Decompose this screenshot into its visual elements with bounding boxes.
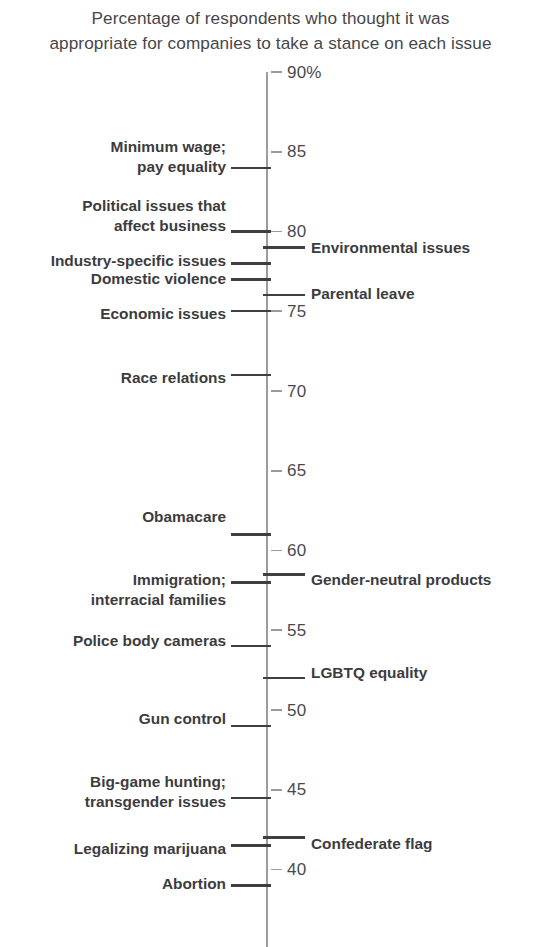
scale-tick-label: 75: [287, 303, 306, 320]
data-point-connector: [269, 573, 305, 575]
data-point-connector: [231, 310, 265, 312]
data-point-label: Race relations: [0, 368, 226, 388]
data-point-connector: [231, 230, 265, 232]
scale-tick-mark: [271, 789, 282, 791]
data-point-label: Obamacare: [0, 507, 226, 527]
scale-tick-mark: [271, 709, 282, 711]
data-point-connector: [231, 374, 265, 376]
data-point-label: Gun control: [0, 709, 226, 729]
data-point-connector: [231, 167, 265, 169]
scale-tick-label: 55: [287, 622, 306, 639]
data-point-connector: [269, 836, 305, 838]
scale-tick-mark: [271, 629, 282, 631]
scale-tick-mark: [271, 550, 282, 552]
data-point-label: Environmental issues: [311, 238, 541, 258]
data-point-label: Minimum wage; pay equality: [0, 137, 226, 176]
chart-title: Percentage of respondents who thought it…: [0, 6, 541, 56]
data-point-connector: [231, 278, 265, 280]
scale-tick-mark: [271, 310, 282, 312]
scale-tick-label: 60: [287, 542, 306, 559]
data-point-label: LGBTQ equality: [311, 663, 541, 683]
data-point-connector: [231, 884, 265, 886]
data-point-label: Police body cameras: [0, 631, 226, 651]
scale-tick-label: 40: [287, 861, 306, 878]
scale-tick-mark: [271, 71, 282, 73]
data-point-connector: [231, 533, 265, 535]
scale-tick-mark: [271, 151, 282, 153]
data-point-label: Legalizing marijuana: [0, 839, 226, 859]
scale-tick-mark: [271, 231, 282, 233]
data-point-label: Immigration; interracial families: [0, 570, 226, 609]
scale-tick-label: 80: [287, 223, 306, 240]
data-point-label: Economic issues: [0, 304, 226, 324]
value-axis-line: [266, 72, 268, 947]
scale-tick-label: 45: [287, 781, 306, 798]
scale-tick-mark: [271, 869, 282, 871]
data-point-label: Parental leave: [311, 284, 541, 304]
data-point-connector: [231, 725, 265, 727]
data-point-connector: [269, 294, 305, 296]
data-point-connector: [269, 246, 305, 248]
scale-tick-label: 85: [287, 143, 306, 160]
data-point-connector: [231, 797, 265, 799]
scale-tick-mark: [271, 390, 282, 392]
data-point-label: Domestic violence: [0, 269, 226, 289]
scale-tick-label: 50: [287, 702, 306, 719]
data-point-label: Confederate flag: [311, 834, 541, 854]
data-point-label: Political issues that affect business: [0, 196, 226, 235]
scale-tick-label: 70: [287, 383, 306, 400]
data-point-connector: [269, 677, 305, 679]
data-point-connector: [231, 581, 265, 583]
data-point-connector: [231, 844, 265, 846]
scale-tick-mark: [271, 470, 282, 472]
data-point-connector: [231, 262, 265, 264]
data-point-connector: [231, 645, 265, 647]
data-point-label: Big-game hunting; transgender issues: [0, 772, 226, 811]
scale-tick-label: 65: [287, 462, 306, 479]
data-point-label: Industry-specific issues: [0, 251, 226, 271]
data-point-label: Abortion: [0, 874, 226, 894]
data-point-label: Gender-neutral products: [311, 570, 541, 590]
scale-tick-label: 90%: [287, 64, 322, 81]
chart-root: Percentage of respondents who thought it…: [0, 0, 541, 947]
